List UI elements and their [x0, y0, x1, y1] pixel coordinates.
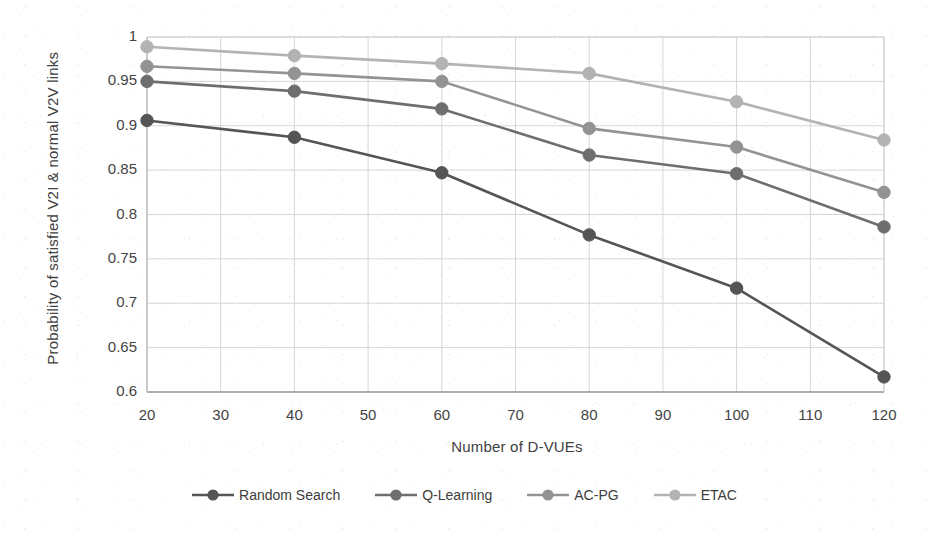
x-tick-label: 110: [780, 406, 840, 423]
legend-marker-icon: [374, 487, 418, 503]
legend-item-label: AC-PG: [574, 487, 618, 503]
x-tick-label: 80: [559, 406, 619, 423]
legend-marker-icon: [526, 487, 570, 503]
y-tick-label: 0.95: [69, 71, 137, 88]
chart-legend: Random SearchQ-LearningAC-PGETAC: [0, 487, 928, 503]
y-tick-label: 0.85: [69, 160, 137, 177]
y-tick-label: 1: [69, 27, 137, 44]
x-tick-label: 90: [633, 406, 693, 423]
x-tick-label: 120: [854, 406, 914, 423]
legend-item[interactable]: ETAC: [653, 487, 737, 503]
x-tick-label: 50: [338, 406, 398, 423]
y-tick-label: 0.9: [69, 116, 137, 133]
y-tick-label: 0.8: [69, 205, 137, 222]
legend-marker-icon: [653, 487, 697, 503]
x-tick-label: 100: [707, 406, 767, 423]
x-tick-label: 60: [412, 406, 472, 423]
legend-item[interactable]: Q-Learning: [374, 487, 492, 503]
y-tick-label: 0.65: [69, 338, 137, 355]
x-axis-title: Number of D-VUEs: [147, 438, 887, 455]
legend-item[interactable]: AC-PG: [526, 487, 618, 503]
gridlines: [147, 37, 884, 392]
line-chart-figure: Probability of satisfied V2I & normal V2…: [0, 0, 928, 535]
legend-item-label: ETAC: [701, 487, 737, 503]
x-tick-label: 70: [486, 406, 546, 423]
x-tick-label: 30: [191, 406, 251, 423]
y-tick-label: 0.6: [69, 382, 137, 399]
y-tick-label: 0.75: [69, 249, 137, 266]
legend-item-label: Random Search: [239, 487, 340, 503]
x-tick-label: 20: [117, 406, 177, 423]
y-tick-label: 0.7: [69, 293, 137, 310]
legend-item-label: Q-Learning: [422, 487, 492, 503]
legend-item[interactable]: Random Search: [191, 487, 340, 503]
x-tick-label: 40: [264, 406, 324, 423]
legend-marker-icon: [191, 487, 235, 503]
